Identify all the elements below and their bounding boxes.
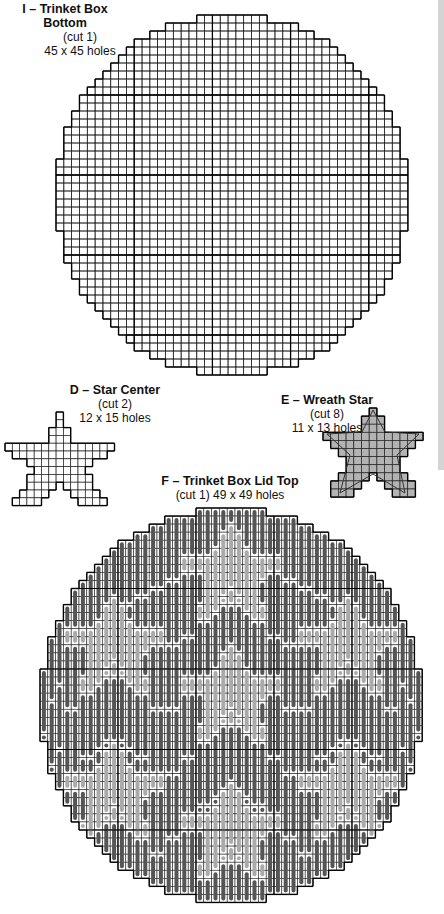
piece-f-lid-grid	[40, 508, 422, 902]
piece-i-grid	[56, 15, 408, 375]
pattern-diagrams	[0, 0, 444, 914]
piece-e-star	[323, 408, 423, 497]
piece-d-star	[5, 412, 115, 506]
